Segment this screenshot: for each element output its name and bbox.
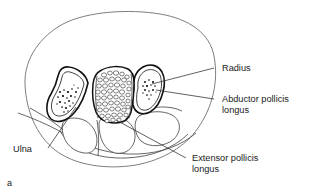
cancellous-bone-group — [93, 67, 134, 123]
ulna-cortex-inner — [51, 72, 84, 116]
label-extensor-pollicis-longus-line1: Extensor pollicis — [192, 153, 259, 163]
label-ulna: Ulna — [13, 144, 33, 154]
label-radius: Radius — [222, 63, 251, 73]
ulna-bone-group — [47, 67, 88, 122]
compartment-left-lobe — [62, 118, 97, 153]
figure-caption: a — [7, 178, 12, 188]
radius-bone-group — [133, 65, 165, 114]
label-extensor-pollicis-longus-line2: longus — [192, 164, 219, 174]
label-abductor-pollicis-longus-line1: Abductor pollicis — [222, 94, 289, 104]
anatomy-figure: Radius Abductor pollicis longus Ulna Ext… — [0, 0, 309, 192]
label-abductor-pollicis-longus-line2: longus — [222, 105, 249, 115]
compartment-right-lobe — [135, 112, 179, 146]
leader-line-abductor — [156, 90, 214, 99]
